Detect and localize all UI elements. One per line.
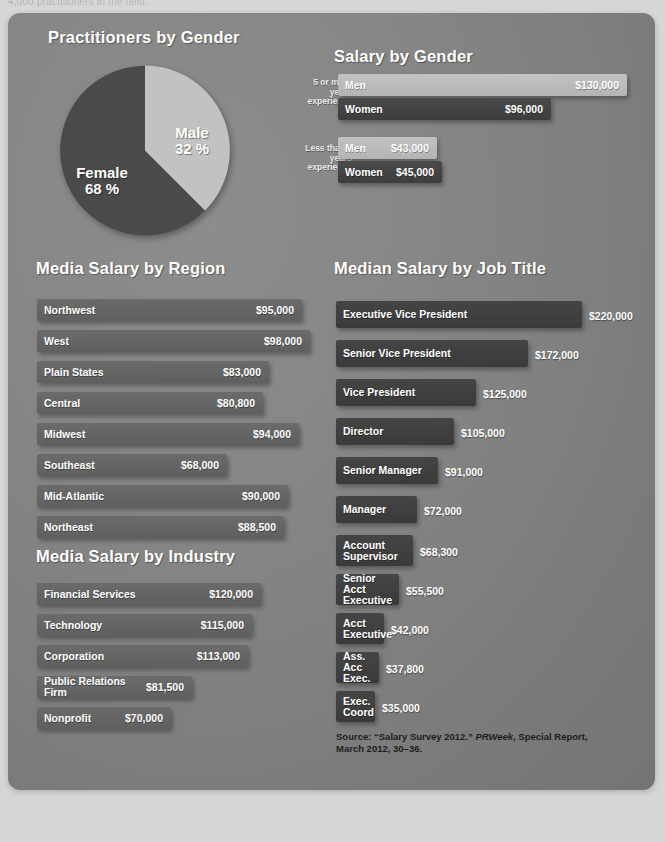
bar-value: $95,000	[256, 304, 302, 316]
job-bar-ass-acc-exec: Ass. Acc Exec.	[336, 652, 379, 683]
source-publication: PRWeek	[475, 731, 513, 742]
job-bar-vice-president: Vice President	[336, 379, 476, 406]
bar-label: Senior Manager	[336, 465, 422, 476]
job-bar-senior-acct-executive: Senior Acct Executive	[336, 574, 399, 605]
source-pre: Source: “Salary Survey 2012.”	[336, 731, 475, 742]
industry-bar-financial-services: Financial Services $120,000	[37, 583, 261, 605]
bar-label: Account Supervisor	[336, 540, 398, 562]
salary-by-gender-title: Salary by Gender	[334, 47, 473, 66]
region-bar-northwest: Northwest $95,000	[37, 299, 302, 321]
region-bar-central: Central $80,800	[37, 392, 263, 414]
bar-label: Midwest	[37, 429, 85, 440]
bar-value: $70,000	[125, 712, 171, 724]
source-line2: March 2012, 30–36.	[336, 743, 422, 754]
source-citation: Source: “Salary Survey 2012.” PRWeek, Sp…	[336, 731, 588, 755]
job-value-ass-acc-exec: $37,800	[386, 663, 424, 675]
job-bar-account-supervisor: Account Supervisor	[336, 535, 413, 566]
bar-value: $83,000	[223, 366, 269, 378]
bar-label: Northeast	[37, 522, 93, 533]
bar-label: Central	[37, 398, 80, 409]
bar-label: West	[37, 336, 69, 347]
job-bar-acct-executive: Acct Executive	[336, 613, 384, 644]
region-bar-northeast: Northeast $88,500	[37, 516, 284, 538]
clipped-header-text: 4,000 practitioners in the field.	[8, 0, 148, 7]
bar-value: $96,000	[505, 103, 551, 115]
bar-value: $80,800	[217, 397, 263, 409]
industry-bar-corporation: Corporation $113,000	[37, 645, 248, 667]
bar-label: Mid-Atlantic	[37, 491, 104, 502]
job-value-director: $105,000	[461, 427, 505, 439]
bar-value: $113,000	[197, 650, 248, 662]
region-bar-mid-atlantic: Mid-Atlantic $90,000	[37, 485, 288, 507]
bar-label: Men	[338, 143, 366, 154]
industry-bar-public-relations-firm: Public Relations Firm $81,500	[37, 676, 192, 698]
bar-value: $43,000	[391, 142, 437, 154]
bar-value: $90,000	[242, 490, 288, 502]
region-bar-southeast: Southeast $68,000	[37, 454, 227, 476]
jobtitle-chart-title: Median Salary by Job Title	[334, 259, 546, 278]
bar-label: Executive Vice President	[336, 309, 467, 320]
infographic-poster: Practitioners by Gender Male 32 % Female…	[8, 13, 655, 790]
bar-value: $45,000	[396, 166, 442, 178]
pie-chart-title: Practitioners by Gender	[48, 28, 240, 47]
job-value-senior-acct-executive: $55,500	[406, 585, 444, 597]
bar-label: Senior Acct Executive	[336, 573, 399, 606]
region-bar-midwest: Midwest $94,000	[37, 423, 299, 445]
job-value-senior-vice-president: $172,000	[535, 349, 579, 361]
bar-value: $115,000	[201, 619, 252, 631]
bar-label: Manager	[336, 504, 386, 515]
bar-value: $68,000	[181, 459, 227, 471]
bar-label: Acct Executive	[336, 618, 392, 640]
bar-label: Public Relations Firm	[37, 676, 146, 698]
pie-label-male-value: 32 %	[157, 141, 227, 157]
source-post: , Special Report,	[513, 731, 587, 742]
bar-value: $94,000	[253, 428, 299, 440]
bar-value: $98,000	[264, 335, 310, 347]
job-bar-director: Director	[336, 418, 454, 445]
job-bar-manager: Manager	[336, 496, 417, 523]
pie-label-female: Female 68 %	[60, 165, 144, 197]
bar-men-less-than-5: Men $43,000	[338, 137, 437, 159]
pie-label-female-value: 68 %	[60, 181, 144, 197]
job-value-manager: $72,000	[424, 505, 462, 517]
industry-bar-technology: Technology $115,000	[37, 614, 252, 636]
bar-label: Southeast	[37, 460, 95, 471]
industry-chart-title: Media Salary by Industry	[36, 547, 235, 566]
bar-label: Vice President	[336, 387, 415, 398]
bar-label: Corporation	[37, 651, 104, 662]
bar-label: Nonprofit	[37, 713, 91, 724]
bar-label: Women	[338, 104, 383, 115]
bar-label: Financial Services	[37, 589, 136, 600]
job-bar-executive-vice-president: Executive Vice President	[336, 301, 582, 328]
bar-women-less-than-5: Women $45,000	[338, 161, 442, 183]
job-value-account-supervisor: $68,300	[420, 546, 458, 558]
job-bar-exec-coord: Exec. Coord	[336, 691, 375, 722]
bar-label: Ass. Acc Exec.	[336, 651, 379, 684]
bar-label: Technology	[37, 620, 102, 631]
job-value-acct-executive: $42,000	[391, 624, 429, 636]
job-bar-senior-manager: Senior Manager	[336, 457, 438, 484]
bar-label: Northwest	[37, 305, 95, 316]
bar-label: Women	[338, 167, 383, 178]
job-value-executive-vice-president: $220,000	[589, 310, 633, 322]
job-value-senior-manager: $91,000	[445, 466, 483, 478]
bar-label: Plain States	[37, 367, 104, 378]
pie-label-male: Male 32 %	[157, 125, 227, 157]
bar-value: $81,500	[146, 681, 192, 693]
bar-label: Senior Vice President	[336, 348, 451, 359]
region-bar-west: West $98,000	[37, 330, 310, 352]
bar-value: $120,000	[209, 588, 261, 600]
job-value-vice-president: $125,000	[483, 388, 527, 400]
bar-value: $130,000	[575, 79, 627, 91]
industry-bar-nonprofit: Nonprofit $70,000	[37, 707, 171, 729]
region-chart-title: Media Salary by Region	[36, 259, 226, 278]
pie-label-male-name: Male	[175, 124, 208, 141]
job-bar-senior-vice-president: Senior Vice President	[336, 340, 528, 367]
region-bar-plain-states: Plain States $83,000	[37, 361, 269, 383]
bar-label: Exec. Coord	[336, 696, 374, 718]
bar-women-5-or-more: Women $96,000	[338, 98, 551, 120]
bar-label: Director	[336, 426, 383, 437]
practitioners-by-gender-pie: Male 32 % Female 68 %	[51, 63, 256, 235]
bar-value: $88,500	[238, 521, 284, 533]
bar-label: Men	[338, 80, 366, 91]
